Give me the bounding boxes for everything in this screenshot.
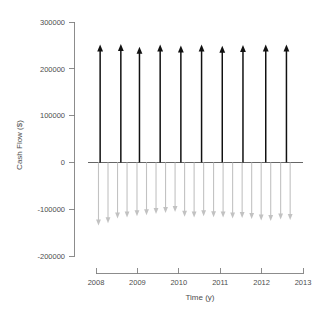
inflow-arrow (199, 44, 205, 162)
outflow-arrow (221, 162, 226, 217)
y-tick-label: 300000 (40, 18, 65, 27)
y-axis-title: Cash Flow ($) (15, 120, 24, 170)
x-tick-label: 2011 (212, 278, 228, 287)
inflow-arrow (137, 47, 143, 163)
outflow-arrow (192, 162, 197, 217)
inflow-arrow (118, 44, 124, 162)
outflow-arrow (259, 162, 264, 220)
inflow-arrow (178, 45, 184, 162)
cash-flow-diagram: -200000-1000000100000200000300000 Cash F… (0, 0, 332, 314)
x-tick-label: 2010 (170, 278, 187, 287)
outflow-arrow (125, 162, 130, 217)
x-tick-label: 2009 (129, 278, 146, 287)
outflow-arrow (278, 162, 283, 219)
x-axis: 200820092010201120122013 Time (y) (88, 268, 312, 302)
inflow-arrow-group (97, 44, 289, 162)
inflow-arrow (97, 44, 103, 162)
x-axis-title: Time (y) (185, 293, 214, 302)
x-tick-marks (96, 268, 303, 274)
outflow-arrow (230, 162, 235, 218)
outflow-arrow (211, 162, 216, 217)
outflow-arrow (154, 162, 159, 213)
y-tick-label: -100000 (37, 205, 65, 214)
inflow-arrow (219, 46, 225, 163)
inflow-arrow (284, 44, 290, 162)
inflow-arrow (157, 44, 163, 162)
x-tick-label: 2013 (295, 278, 312, 287)
outflow-arrow (249, 162, 254, 219)
outflow-arrow (135, 162, 140, 216)
outflow-arrow (144, 162, 149, 215)
outflow-arrow (182, 162, 187, 216)
x-tick-label: 2008 (88, 278, 105, 287)
x-tick-labels: 200820092010201120122013 (88, 278, 312, 287)
outflow-arrow (201, 162, 206, 216)
outflow-arrow (268, 162, 273, 221)
outflow-arrow (288, 162, 293, 220)
x-tick-label: 2012 (253, 278, 270, 287)
inflow-arrow (240, 45, 246, 162)
outflow-arrow-group (96, 162, 292, 225)
y-tick-label: 200000 (40, 65, 65, 74)
outflow-arrow (106, 162, 111, 223)
outflow-arrow (163, 162, 168, 213)
outflow-arrow (240, 162, 245, 218)
y-tick-label: -200000 (37, 252, 65, 261)
chart-figure: -200000-1000000100000200000300000 Cash F… (0, 0, 332, 314)
y-tick-marks (69, 22, 75, 256)
inflow-arrow (263, 44, 269, 162)
y-tick-label: 100000 (40, 111, 65, 120)
y-tick-label: 0 (61, 158, 65, 167)
y-tick-labels: -200000-1000000100000200000300000 (37, 18, 65, 261)
outflow-arrow (173, 162, 178, 212)
outflow-arrow (115, 162, 120, 218)
y-axis: -200000-1000000100000200000300000 Cash F… (15, 18, 75, 261)
outflow-arrow (96, 162, 101, 225)
